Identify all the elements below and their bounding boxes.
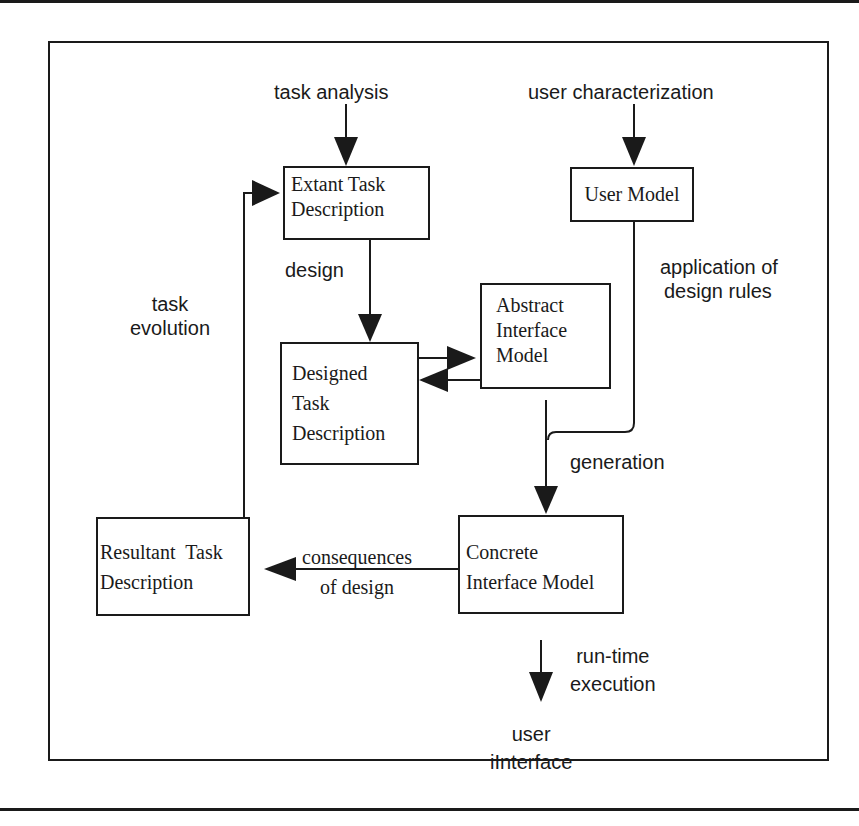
node-text: Description bbox=[292, 418, 411, 448]
label-line: application of bbox=[660, 255, 778, 279]
node-text: Task bbox=[292, 388, 411, 418]
label-line: of design bbox=[302, 572, 412, 602]
node-designed-task-description: Designed Task Description bbox=[280, 342, 419, 465]
label-design: design bbox=[285, 258, 344, 282]
node-text: Abstract bbox=[496, 293, 603, 318]
arrowhead-run-time bbox=[529, 672, 553, 702]
label-line: user bbox=[490, 720, 572, 748]
label-user-characterization: user characterization bbox=[528, 80, 714, 104]
node-user-model: User Model bbox=[570, 167, 694, 222]
node-text: Resultant Task bbox=[100, 537, 248, 567]
connector-layer bbox=[0, 0, 859, 826]
label-application-of-design-rules: application of design rules bbox=[660, 255, 778, 303]
node-abstract-interface-model: Abstract Interface Model bbox=[480, 283, 611, 389]
label-generation: generation bbox=[570, 450, 665, 474]
label-line: consequences bbox=[302, 542, 412, 572]
arrowhead-task-analysis bbox=[334, 137, 358, 166]
label-consequences-of-design: consequences of design bbox=[302, 542, 412, 602]
node-concrete-interface-model: Concrete Interface Model bbox=[458, 515, 624, 614]
arrowhead-design bbox=[358, 314, 382, 342]
arrowhead-to-designed bbox=[419, 368, 448, 392]
node-text: Model bbox=[496, 343, 603, 368]
label-line: run-time bbox=[570, 642, 656, 670]
node-text: Interface Model bbox=[466, 567, 622, 597]
label-run-time-execution: run-time execution bbox=[570, 642, 656, 698]
label-line: execution bbox=[570, 670, 656, 698]
arrowhead-generation bbox=[534, 486, 558, 514]
node-text: Interface bbox=[496, 318, 603, 343]
line-task-evolution bbox=[244, 193, 254, 517]
arrowhead-task-evolution bbox=[252, 180, 280, 206]
node-text: Designed bbox=[292, 358, 411, 388]
arrowhead-consequences bbox=[264, 557, 296, 581]
arrowhead-to-abstract bbox=[447, 346, 476, 370]
label-line: design rules bbox=[660, 279, 778, 303]
node-extant-task-description: Extant Task Description bbox=[283, 166, 430, 240]
node-text: Concrete bbox=[466, 537, 622, 567]
label-user-interface: user iInterface bbox=[490, 720, 572, 776]
node-resultant-task-description: Resultant Task Description bbox=[96, 517, 250, 616]
node-text: Description bbox=[100, 567, 248, 597]
label-line: iInterface bbox=[490, 748, 572, 776]
arrowhead-user-characterization bbox=[622, 137, 646, 166]
label-task-analysis: task analysis bbox=[274, 80, 389, 104]
label-line: task bbox=[130, 292, 210, 316]
label-line: evolution bbox=[130, 316, 210, 340]
node-text: Description bbox=[291, 197, 422, 222]
node-text: Extant Task bbox=[291, 172, 422, 197]
node-text: User Model bbox=[578, 182, 686, 207]
label-task-evolution: task evolution bbox=[130, 292, 210, 340]
